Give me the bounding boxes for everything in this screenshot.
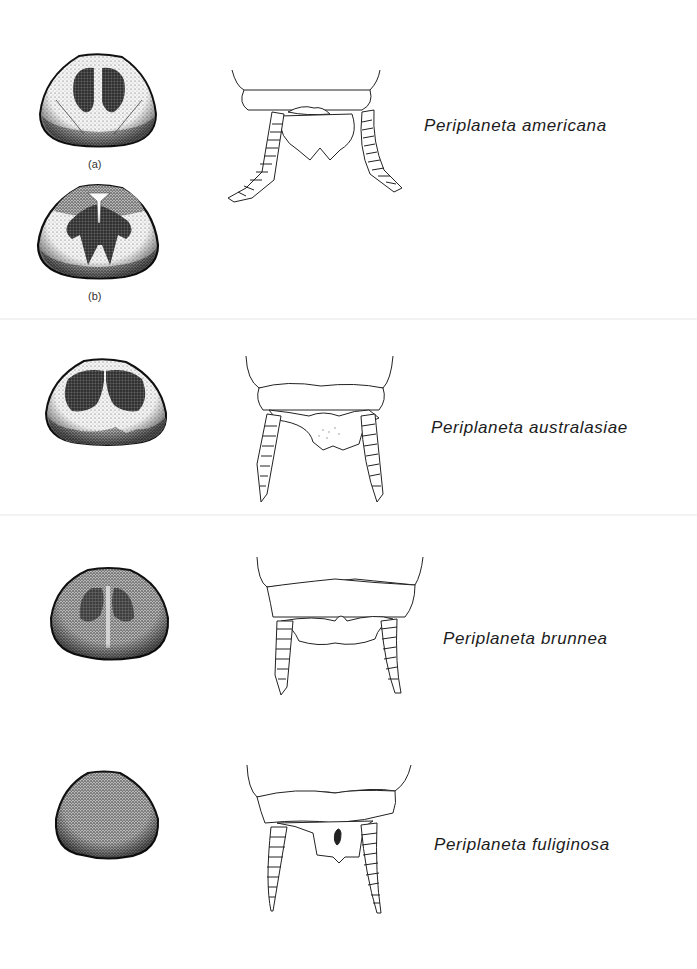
divider bbox=[0, 318, 697, 320]
species-name-australasiae: Periplaneta australasiae bbox=[431, 418, 628, 438]
variant-label-a: (a) bbox=[88, 158, 101, 170]
pronotum-brunnea bbox=[48, 566, 178, 666]
abdomen-tip-americana bbox=[222, 68, 402, 218]
pronotum-americana-b bbox=[32, 183, 167, 283]
abdomen-tip-fuliginosa bbox=[245, 763, 415, 923]
species-name-americana: Periplaneta americana bbox=[424, 116, 607, 136]
divider bbox=[0, 514, 697, 516]
variant-label-b: (b) bbox=[88, 290, 101, 302]
abdomen-tip-australasiae bbox=[243, 354, 403, 509]
species-name-brunnea: Periplaneta brunnea bbox=[443, 629, 608, 649]
pronotum-americana-a bbox=[34, 52, 164, 152]
species-name-fuliginosa: Periplaneta fuliginosa bbox=[434, 835, 610, 855]
pronotum-australasiae bbox=[42, 357, 172, 447]
pronotum-fuliginosa bbox=[54, 771, 164, 861]
abdomen-tip-brunnea bbox=[255, 555, 425, 705]
